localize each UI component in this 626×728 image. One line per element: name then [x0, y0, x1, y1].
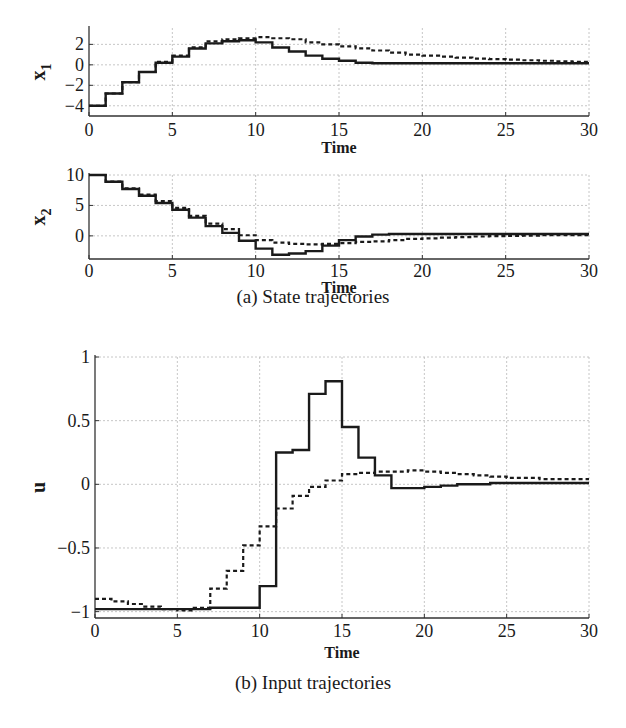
y-tick-label: −4 — [65, 96, 84, 116]
x-axis-label: Time — [321, 139, 356, 156]
x1-state-plot: 051015202530−4−202Timex1 — [0, 10, 626, 160]
y-tick-label: −2 — [65, 75, 84, 95]
x-axis-label: Time — [324, 644, 359, 660]
caption-input-trajectories: (b) Input trajectories — [0, 672, 626, 694]
y-tick-label: −0.5 — [57, 538, 90, 558]
x-tick-label: 15 — [330, 120, 348, 140]
y-tick-label: 2 — [75, 34, 84, 54]
x1-axes: 051015202530−4−202Timex1 — [27, 26, 598, 156]
x-tick-label: 0 — [91, 621, 100, 641]
x-tick-label: 0 — [85, 120, 94, 140]
x-tick-label: 5 — [168, 261, 177, 281]
y-tick-label: 0 — [75, 55, 84, 75]
x-tick-label: 15 — [330, 261, 348, 281]
x1-series-dashed — [89, 37, 589, 106]
x-tick-label: 30 — [580, 621, 598, 641]
x-tick-label: 30 — [580, 120, 598, 140]
x2-state-plot: 0510152025300510Timex2 — [0, 160, 626, 300]
x2-series-solid — [89, 175, 589, 255]
x2-axes: 0510152025300510Timex2 — [27, 165, 598, 296]
u-axes: 051015202530−1−0.500.51Timeu — [27, 347, 598, 660]
x-tick-label: 25 — [498, 621, 516, 641]
y-tick-label: 5 — [75, 195, 84, 215]
x-tick-label: 10 — [247, 120, 265, 140]
figure: 051015202530−4−202Timex1 051015202530051… — [0, 0, 626, 728]
x-tick-label: 10 — [247, 261, 265, 281]
x-tick-label: 10 — [251, 621, 269, 641]
x-tick-label: 20 — [413, 261, 431, 281]
y-tick-label: 1 — [81, 347, 90, 367]
x-tick-label: 25 — [497, 120, 515, 140]
y-axis-label: x1 — [27, 64, 54, 81]
x-tick-label: 15 — [333, 621, 351, 641]
x-tick-label: 0 — [85, 261, 94, 281]
y-tick-label: 10 — [66, 165, 84, 185]
y-axis-label: x2 — [27, 209, 54, 226]
x-tick-label: 5 — [173, 621, 182, 641]
y-tick-label: −1 — [71, 602, 90, 622]
y-tick-label: 0 — [75, 226, 84, 246]
caption-state-trajectories: (a) State trajectories — [0, 286, 626, 308]
x-tick-label: 20 — [415, 621, 433, 641]
x-tick-label: 20 — [413, 120, 431, 140]
x-tick-label: 25 — [497, 261, 515, 281]
y-tick-label: 0 — [81, 474, 90, 494]
u-input-plot: 051015202530−1−0.500.51Timeu — [0, 340, 626, 660]
y-tick-label: 0.5 — [68, 411, 91, 431]
x-tick-label: 30 — [580, 261, 598, 281]
y-axis-label: u — [27, 482, 49, 493]
x-tick-label: 5 — [168, 120, 177, 140]
